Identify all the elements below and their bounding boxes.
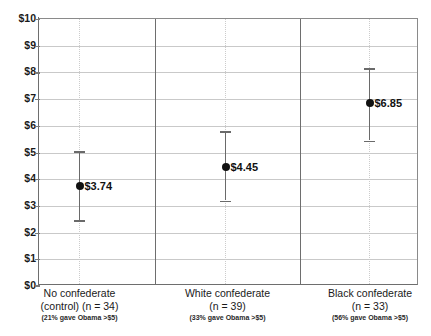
error-bar-cap-lower-1 bbox=[74, 220, 85, 222]
error-bar-cap-lower-2 bbox=[220, 201, 231, 203]
y-tick-label-8: $8 bbox=[4, 66, 36, 77]
y-tickmark-3 bbox=[35, 206, 40, 207]
y-tick-label-1: $1 bbox=[4, 253, 36, 264]
x-caption-line3-3: (56% gave Obama >$5) bbox=[298, 313, 431, 323]
y-tickmark-1 bbox=[35, 259, 40, 260]
x-caption-line2-1: (control) (n = 34) bbox=[4, 300, 155, 313]
x-caption-line2-2: (n = 39) bbox=[155, 300, 300, 313]
x-caption-line3-1: (21% gave Obama >$5) bbox=[4, 313, 155, 323]
y-tick-label-5: $5 bbox=[4, 146, 36, 157]
gridline-2 bbox=[39, 233, 417, 234]
x-caption-line3-2: (33% gave Obama >$5) bbox=[155, 313, 300, 323]
y-tick-label-9: $9 bbox=[4, 39, 36, 50]
y-tick-label-3: $3 bbox=[4, 200, 36, 211]
guide-line-group-3 bbox=[369, 19, 371, 284]
y-tickmark-6 bbox=[35, 126, 40, 127]
error-bar-cap-upper-1 bbox=[74, 151, 85, 153]
plot-area: $3.74 $4.45 $6.85 bbox=[39, 18, 418, 285]
x-caption-line1-1: No confederate bbox=[4, 287, 155, 300]
y-tickmark-9 bbox=[35, 46, 40, 47]
data-point-1 bbox=[76, 182, 84, 190]
x-axis-caption-group-2: White confederate (n = 39) (33% gave Oba… bbox=[155, 287, 300, 323]
data-point-label-1: $3.74 bbox=[85, 181, 113, 192]
gridline-8 bbox=[39, 72, 417, 73]
x-caption-line1-2: White confederate bbox=[155, 287, 300, 300]
chart-figure: $10 $9 $8 $7 $6 $5 $4 $3 $2 $1 $0 bbox=[0, 0, 431, 336]
data-point-2 bbox=[222, 163, 230, 171]
x-axis-caption-group-3: Black confederate (n = 33) (56% gave Oba… bbox=[298, 287, 431, 323]
y-tick-label-7: $7 bbox=[4, 93, 36, 104]
data-point-label-3: $6.85 bbox=[375, 98, 403, 109]
gridline-5 bbox=[39, 153, 417, 154]
data-point-label-2: $4.45 bbox=[231, 162, 259, 173]
y-tickmark-4 bbox=[35, 179, 40, 180]
x-caption-line2-3: (n = 33) bbox=[298, 300, 431, 313]
error-bar-cap-upper-3 bbox=[364, 68, 375, 70]
gridline-9 bbox=[39, 46, 417, 47]
y-tickmark-7 bbox=[35, 99, 40, 100]
data-point-3 bbox=[366, 99, 374, 107]
y-tickmark-5 bbox=[35, 153, 40, 154]
y-axis-labels: $10 $9 $8 $7 $6 $5 $4 $3 $2 $1 $0 bbox=[0, 0, 36, 336]
y-tick-label-4: $4 bbox=[4, 173, 36, 184]
x-axis-caption-group-1: No confederate (control) (n = 34) (21% g… bbox=[4, 287, 155, 323]
error-bar-cap-lower-3 bbox=[364, 141, 375, 143]
gridline-7 bbox=[39, 99, 417, 100]
panel-divider-2 bbox=[300, 19, 301, 284]
y-tickmark-2 bbox=[35, 233, 40, 234]
y-tickmark-8 bbox=[35, 72, 40, 73]
gridline-3 bbox=[39, 206, 417, 207]
y-tick-label-10: $10 bbox=[4, 13, 36, 24]
y-tick-label-2: $2 bbox=[4, 226, 36, 237]
x-axis-captions: No confederate (control) (n = 34) (21% g… bbox=[39, 287, 418, 336]
y-tickmark-10 bbox=[35, 19, 40, 20]
error-bar-cap-upper-2 bbox=[220, 131, 231, 133]
panel-divider-1 bbox=[155, 19, 156, 284]
x-caption-line1-3: Black confederate bbox=[298, 287, 431, 300]
gridline-1 bbox=[39, 259, 417, 260]
gridline-6 bbox=[39, 126, 417, 127]
y-tick-label-6: $6 bbox=[4, 120, 36, 131]
